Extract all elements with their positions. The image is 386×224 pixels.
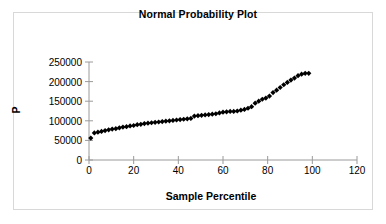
x-tick-label: 20 — [128, 165, 139, 176]
x-tick-label: 120 — [349, 165, 366, 176]
x-tick-label: 100 — [304, 165, 321, 176]
x-tick-label: 40 — [173, 165, 184, 176]
x-tick-label: 0 — [86, 165, 92, 176]
x-tick-label: 80 — [262, 165, 273, 176]
x-axis-tick-labels: 020406080100120 — [0, 0, 386, 224]
x-tick-label: 60 — [217, 165, 228, 176]
